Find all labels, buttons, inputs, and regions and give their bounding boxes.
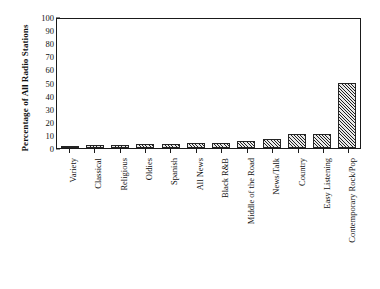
y-axis-tick-label: 10 [0, 131, 54, 141]
bar [162, 144, 180, 148]
bar [288, 134, 306, 148]
x-axis-tick-label: Black R&B [221, 158, 230, 198]
y-axis-tick-label: 80 [0, 39, 54, 49]
x-axis-tick-mark [94, 149, 95, 153]
x-axis-tick-mark [323, 149, 324, 153]
x-axis-tick-mark [221, 149, 222, 153]
y-axis-tick-label: 100 [0, 13, 54, 23]
plot-area [56, 18, 361, 149]
x-axis-slot: Classical [81, 152, 106, 287]
y-axis-tick-label: 50 [0, 79, 54, 89]
bar [263, 139, 281, 148]
y-axis-tick-label: 70 [0, 52, 54, 62]
bar [237, 141, 255, 148]
x-axis-slot: Country [285, 152, 310, 287]
x-axis-tick-mark [298, 149, 299, 153]
x-axis-tick-mark [145, 149, 146, 153]
x-axis-tick-label: Variety [69, 158, 78, 183]
y-axis-tick-label: 20 [0, 118, 54, 128]
bar-slot [209, 19, 234, 148]
bar [61, 146, 79, 148]
x-axis-tick-mark [196, 149, 197, 153]
x-axis-tick-mark [120, 149, 121, 153]
bar-slot [335, 19, 360, 148]
x-axis-tick-mark [348, 149, 349, 153]
x-axis-slot: Middle of the Road [234, 152, 259, 287]
x-axis-slot: Easy Listening [310, 152, 335, 287]
bar-slot [259, 19, 284, 148]
x-axis-tick-mark [170, 149, 171, 153]
y-axis-tick-label: 60 [0, 65, 54, 75]
x-axis-tick-label: Religious [120, 158, 129, 191]
x-axis-tick-label: Classical [94, 158, 103, 189]
x-axis-slot: Variety [56, 152, 81, 287]
y-axis-tick-label: 30 [0, 105, 54, 115]
bar [338, 83, 356, 149]
y-axis-tick-label: 90 [0, 26, 54, 36]
bar-slot [310, 19, 335, 148]
bar [212, 143, 230, 148]
x-axis-slot: Contemporary Rock/Pop [336, 152, 361, 287]
x-axis-slot: Black R&B [209, 152, 234, 287]
bar [86, 145, 104, 148]
bar-chart-figure: Percentage of All Radio Stations 0102030… [0, 0, 380, 289]
y-axis-tick-label: 40 [0, 92, 54, 102]
bar-slot [158, 19, 183, 148]
bar [187, 143, 205, 148]
bar-slot [82, 19, 107, 148]
x-axis-tick-label: Easy Listening [323, 158, 332, 209]
x-axis-tick-mark [247, 149, 248, 153]
x-axis-slot: Spanish [158, 152, 183, 287]
y-axis-tick-label: 0 [0, 144, 54, 154]
x-axis-slot: Oldies [132, 152, 157, 287]
x-axis-slot: Religious [107, 152, 132, 287]
bar-slot [108, 19, 133, 148]
x-axis-tick-label: News/Talk [272, 158, 281, 195]
bar [111, 145, 129, 148]
x-axis-slot: All News [183, 152, 208, 287]
bar-slot [183, 19, 208, 148]
x-axis-tick-label: Middle of the Road [247, 158, 256, 224]
bar-series [57, 19, 360, 148]
x-axis-tick-mark [69, 149, 70, 153]
x-axis-tick-label: Contemporary Rock/Pop [348, 158, 357, 243]
x-axis-tick-label: Oldies [145, 158, 154, 180]
x-axis-tick-label: All News [196, 158, 205, 190]
bar [313, 134, 331, 148]
x-axis-tick-label: Spanish [170, 158, 179, 185]
x-axis-labels: VarietyClassicalReligiousOldiesSpanishAl… [56, 152, 361, 287]
x-axis-tick-label: Country [298, 158, 307, 186]
bar-slot [234, 19, 259, 148]
bar [136, 144, 154, 148]
bar-slot [57, 19, 82, 148]
x-axis-tick-mark [272, 149, 273, 153]
bar-slot [284, 19, 309, 148]
x-axis-slot: News/Talk [259, 152, 284, 287]
bar-slot [133, 19, 158, 148]
